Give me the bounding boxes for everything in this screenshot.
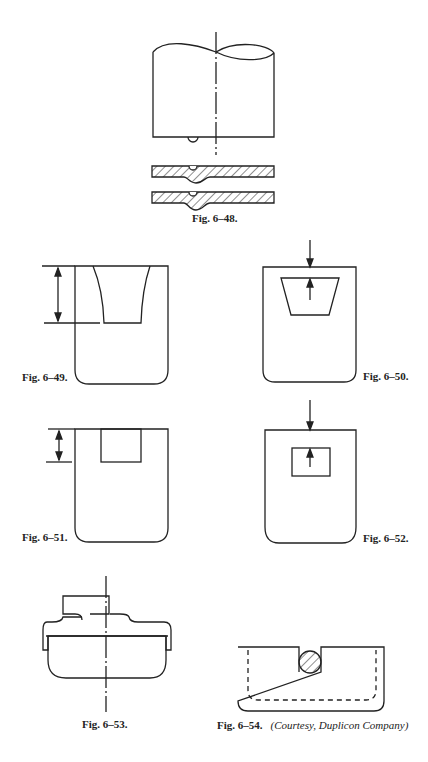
punch-cylinder bbox=[153, 44, 274, 137]
fig-6-51-drawing bbox=[46, 429, 168, 542]
fig-6-49-drawing bbox=[42, 266, 168, 384]
tapered-cavity bbox=[93, 266, 150, 323]
fig-6-50-drawing bbox=[263, 240, 356, 382]
caption-fig-6-48: Fig. 6–48. bbox=[192, 212, 238, 224]
square-cavity bbox=[101, 429, 141, 462]
caption-fig-6-49: Fig. 6–49. bbox=[22, 371, 68, 383]
punch-flange bbox=[43, 614, 171, 650]
die-block bbox=[75, 266, 168, 384]
die-block bbox=[75, 429, 168, 542]
courtesy-credit: (Courtesy, Duplicon Company) bbox=[271, 719, 409, 731]
caption-fig-6-51: Fig. 6–51. bbox=[22, 531, 68, 543]
hatched-plate-2 bbox=[152, 192, 274, 210]
hatched-pin bbox=[299, 651, 321, 673]
caption-fig-6-50: Fig. 6–50. bbox=[363, 370, 409, 382]
punch-body bbox=[48, 636, 166, 678]
fig-6-54-drawing bbox=[238, 647, 384, 711]
caption-fig-6-53: Fig. 6–53. bbox=[82, 718, 128, 730]
caption-fig-6-52: Fig. 6–52. bbox=[363, 532, 409, 544]
fig-6-53-drawing bbox=[43, 576, 171, 712]
fig-6-48-drawing bbox=[152, 32, 274, 210]
caption-fig-6-54: Fig. 6–54.(Courtesy, Duplicon Company) bbox=[217, 719, 408, 731]
hatched-plate-1 bbox=[152, 166, 274, 183]
die-block bbox=[265, 430, 356, 543]
punch-tip-bump bbox=[188, 137, 198, 142]
caption-fig-6-54-label: Fig. 6–54. bbox=[217, 719, 263, 731]
fig-6-52-drawing bbox=[265, 400, 356, 543]
